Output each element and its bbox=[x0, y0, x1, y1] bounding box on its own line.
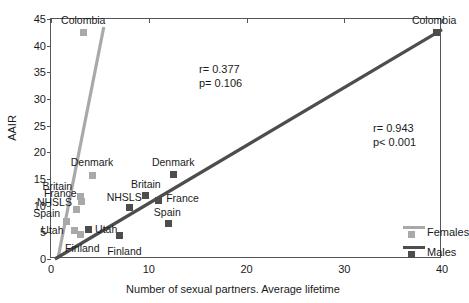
y-tick-label: 25 bbox=[34, 120, 46, 132]
point-label-females-colombia: Colombia bbox=[61, 14, 105, 26]
data-point-females-denmark bbox=[89, 172, 96, 179]
x-tick-label: 40 bbox=[436, 263, 448, 275]
y-tick-mark bbox=[47, 126, 51, 127]
stats-males: r= 0.943 p< 0.001 bbox=[373, 121, 416, 149]
point-label-females-utah: Utah bbox=[41, 224, 63, 236]
x-tick-mark bbox=[344, 19, 345, 23]
data-point-males-finland bbox=[116, 232, 123, 239]
x-tick-mark bbox=[149, 19, 150, 23]
x-tick-label: 10 bbox=[143, 263, 155, 275]
stats-females-r: r= 0.377 bbox=[199, 62, 242, 76]
point-label-females-denmark: Denmark bbox=[71, 156, 114, 168]
y-tick-mark bbox=[47, 46, 51, 47]
point-label-males-denmark: Denmark bbox=[152, 156, 195, 168]
point-label-males-finland: Finland bbox=[107, 245, 141, 257]
x-tick-mark bbox=[247, 19, 248, 23]
data-point-females-france bbox=[78, 198, 85, 205]
y-tick-label: 45 bbox=[34, 13, 46, 25]
point-label-males-britain: Britain bbox=[131, 178, 161, 190]
y-tick-label: 30 bbox=[34, 93, 46, 105]
data-point-females-nhsls bbox=[73, 206, 80, 213]
data-point-females-finland bbox=[77, 231, 84, 238]
y-tick-mark bbox=[47, 259, 51, 260]
y-tick-label: 0 bbox=[40, 253, 46, 265]
data-point-males-britain bbox=[142, 192, 149, 199]
point-label-males-france: France bbox=[166, 192, 199, 204]
legend-label: Females bbox=[427, 226, 469, 238]
stats-females-p: p= 0.106 bbox=[199, 76, 242, 90]
data-point-males-denmark bbox=[170, 171, 177, 178]
x-tick-mark bbox=[51, 19, 52, 23]
legend-marker-swatch bbox=[408, 231, 415, 238]
data-point-females-spain bbox=[63, 218, 70, 225]
y-tick-mark bbox=[47, 99, 51, 100]
data-point-males-utah bbox=[85, 226, 92, 233]
y-tick-label: 35 bbox=[34, 66, 46, 78]
x-tick-label: 0 bbox=[48, 263, 54, 275]
point-label-males-nhsls: NHSLS bbox=[107, 191, 142, 203]
x-axis-title: Number of sexual partners. Average lifet… bbox=[0, 283, 466, 295]
point-label-females-finland: Finland bbox=[65, 242, 99, 254]
data-point-males-colombia bbox=[433, 29, 440, 36]
point-label-males-utah: Utah bbox=[95, 223, 117, 235]
y-tick-label: 20 bbox=[34, 146, 46, 158]
point-label-females-spain: Spain bbox=[33, 207, 60, 219]
legend-marker-swatch bbox=[408, 251, 415, 258]
y-tick-mark bbox=[47, 152, 51, 153]
stats-males-p: p< 0.001 bbox=[373, 135, 416, 149]
legend-line-swatch bbox=[403, 246, 425, 249]
data-point-males-nhsls bbox=[126, 204, 133, 211]
y-axis-title: AAIR bbox=[6, 115, 18, 141]
stats-males-r: r= 0.943 bbox=[373, 121, 416, 135]
y-tick-mark bbox=[47, 72, 51, 73]
y-tick-label: 40 bbox=[34, 40, 46, 52]
data-point-males-france bbox=[155, 197, 162, 204]
stats-females: r= 0.377 p= 0.106 bbox=[199, 62, 242, 90]
x-tick-label: 30 bbox=[338, 263, 350, 275]
point-label-males-colombia: Colombia bbox=[412, 14, 456, 26]
plot-area: 051015202530354045 010203040 ColombiaDen… bbox=[50, 18, 441, 258]
point-label-males-spain: Spain bbox=[154, 206, 181, 218]
legend-line-swatch bbox=[403, 226, 425, 229]
x-tick-label: 20 bbox=[240, 263, 252, 275]
legend-label: Males bbox=[427, 246, 456, 258]
data-point-females-colombia bbox=[80, 29, 87, 36]
data-point-males-spain bbox=[165, 220, 172, 227]
